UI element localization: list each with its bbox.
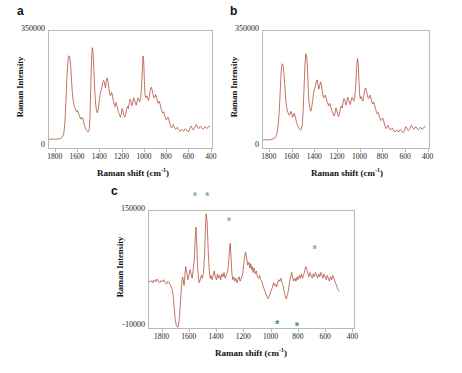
panel-a-tickmark-1000 bbox=[144, 149, 145, 152]
panel-a-ylabel: Raman Intensity bbox=[15, 42, 25, 132]
panel-a-tickmark-1800 bbox=[55, 149, 56, 152]
panel-c-tickmark-1400 bbox=[216, 329, 217, 332]
asterisk-marker-positive-3: * bbox=[313, 244, 317, 255]
panel-c-tickmark-1200 bbox=[243, 329, 244, 332]
panel-b-ylabel: Raman Intensity bbox=[229, 42, 239, 132]
panel-c-xlabel-close: ) bbox=[284, 348, 287, 358]
panel-c-trace-svg bbox=[149, 211, 354, 328]
panel-b-xtick-400: 400 bbox=[415, 152, 441, 161]
asterisk-marker-positive-1: * bbox=[205, 191, 209, 202]
panel-b-tickmark-1000 bbox=[360, 149, 361, 152]
panel-c-xtick-1600: 1600 bbox=[176, 332, 202, 341]
asterisk-marker-negative-4: * bbox=[275, 319, 279, 330]
panel-b-tickmark-600 bbox=[405, 149, 406, 152]
panel-c-label: c bbox=[111, 184, 118, 198]
panel-a-trace-svg bbox=[49, 31, 212, 148]
panel-a-xlabel-close: ) bbox=[166, 168, 169, 178]
panel-c-plot-area bbox=[148, 210, 355, 329]
panel-c-xtick-1400: 1400 bbox=[203, 332, 229, 341]
panel-c-xtick-1200: 1200 bbox=[230, 332, 256, 341]
panel-a-tickmark-400 bbox=[211, 149, 212, 152]
panel-b-xlabel: Raman shift (cm-1) bbox=[272, 167, 422, 178]
panel-a-ytick-max: 350000 bbox=[4, 24, 45, 33]
panel-c-xtick-600: 600 bbox=[312, 332, 338, 341]
panel-b-trace-svg bbox=[263, 31, 429, 148]
panel-c-xtick-400: 400 bbox=[339, 332, 365, 341]
panel-c-tickmark-1800 bbox=[162, 329, 163, 332]
panel-a-xlabel: Raman shift (cm-1) bbox=[58, 167, 208, 178]
panel-a-tickmark-1600 bbox=[77, 149, 78, 152]
asterisk-marker-positive-0: * bbox=[193, 191, 197, 202]
panel-c-xtick-1800: 1800 bbox=[149, 332, 175, 341]
panel-c-ytick-max: 150000 bbox=[104, 204, 145, 213]
panel-c-xtick-800: 800 bbox=[285, 332, 311, 341]
panel-b-ytick-min: 0 bbox=[218, 140, 259, 149]
panel-b-ytick-max: 350000 bbox=[218, 24, 259, 33]
panel-c-xlabel-main: Raman shift (cm bbox=[215, 348, 279, 358]
panel-a-tickmark-1200 bbox=[122, 149, 123, 152]
panel-a-tickmark-800 bbox=[166, 149, 167, 152]
panel-b-tickmark-1800 bbox=[269, 149, 270, 152]
panel-a-xlabel-main: Raman shift (cm bbox=[97, 168, 161, 178]
panel-b-tickmark-1600 bbox=[292, 149, 293, 152]
panel-c-ylabel: Raman Intensity bbox=[115, 222, 125, 312]
panel-c-ytick-min: -10000 bbox=[104, 320, 145, 329]
panel-a-xtick-400: 400 bbox=[198, 152, 224, 161]
panel-a-tickmark-1400 bbox=[99, 149, 100, 152]
panel-b-xlabel-main: Raman shift (cm bbox=[311, 168, 375, 178]
panel-b-tickmark-400 bbox=[428, 149, 429, 152]
panel-b-xlabel-close: ) bbox=[380, 168, 383, 178]
panel-b-plot-area bbox=[262, 30, 430, 149]
panel-b-tickmark-800 bbox=[382, 149, 383, 152]
panel-c-tickmark-600 bbox=[325, 329, 326, 332]
asterisk-marker-positive-2: * bbox=[227, 216, 231, 227]
panel-c-tickmark-1600 bbox=[189, 329, 190, 332]
panel-b-tickmark-1200 bbox=[337, 149, 338, 152]
panel-a-label: a bbox=[17, 4, 24, 18]
panel-c-xlabel: Raman shift (cm-1) bbox=[176, 347, 326, 358]
panel-c-tickmark-400 bbox=[352, 329, 353, 332]
panel-b-label: b bbox=[230, 4, 237, 18]
panel-b-tickmark-1400 bbox=[314, 149, 315, 152]
panel-c-xtick-1000: 1000 bbox=[258, 332, 284, 341]
panel-c-tickmark-800 bbox=[298, 329, 299, 332]
panel-c-tickmark-1000 bbox=[271, 329, 272, 332]
panel-a-tickmark-600 bbox=[188, 149, 189, 152]
panel-a-plot-area bbox=[48, 30, 213, 149]
panel-a-ytick-min: 0 bbox=[4, 140, 45, 149]
